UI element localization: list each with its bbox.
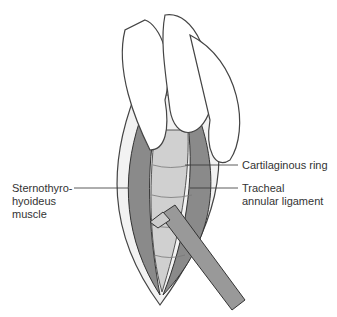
label-tracheal-line1: Tracheal [242,182,284,195]
label-cartilaginous-ring: Cartilaginous ring [242,159,328,172]
label-sternothyro-line1: Sternothyro- [12,182,73,195]
label-sternothyro-line2: hyoideus [12,195,56,208]
label-sternothyro-line3: muscle [12,208,47,221]
label-tracheal-line2: annular ligament [242,195,323,208]
